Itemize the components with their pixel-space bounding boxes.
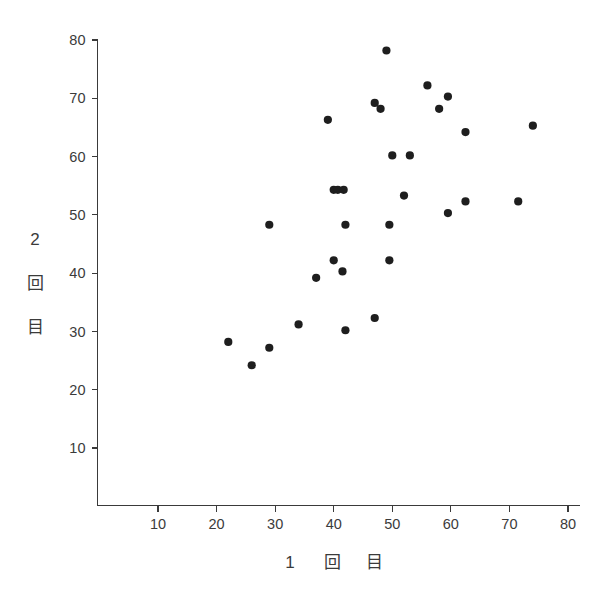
y-tick-label: 40 [69,265,85,281]
scatter-chart: 1020304050607080 1020304050607080 2回目 1回… [0,0,612,600]
data-point [406,151,414,159]
data-point [265,221,273,229]
data-point [461,197,469,205]
data-points [224,46,537,369]
y-tick-label: 10 [69,440,85,456]
y-tick-label: 60 [69,149,85,165]
data-point [330,256,338,264]
data-point [371,314,379,322]
data-point [382,46,390,54]
data-point [400,192,408,200]
data-point [371,99,379,107]
data-point [341,326,349,334]
data-point [529,122,537,130]
y-tick-label: 50 [69,207,85,223]
data-point [294,320,302,328]
x-axis-title-char: 回 [324,553,341,572]
data-point [444,92,452,100]
data-point [341,221,349,229]
data-point [265,344,273,352]
data-point [248,361,256,369]
y-axis-title-char: 回 [27,274,44,293]
data-point [312,274,320,282]
data-point [388,151,396,159]
data-point [324,116,332,124]
x-tick-label: 30 [267,516,283,532]
data-point [444,209,452,217]
data-point [461,128,469,136]
y-tick-label: 70 [69,90,85,106]
x-tick-label: 10 [150,516,166,532]
y-tick-label: 20 [69,382,85,398]
x-axis-title-char: 目 [366,553,383,572]
y-tick-label: 80 [69,32,85,48]
data-point [224,338,232,346]
x-tick-label: 20 [209,516,225,532]
data-point [423,81,431,89]
x-tick-label: 70 [501,516,517,532]
x-tick-label: 50 [384,516,400,532]
x-tick-label: 60 [443,516,459,532]
y-tick-label: 30 [69,324,85,340]
y-axis-ticks: 1020304050607080 [69,32,97,456]
data-point [435,105,443,113]
y-axis-title: 2回目 [27,230,44,337]
y-axis-title-char: 目 [27,318,44,337]
data-point [376,105,384,113]
x-axis-title: 1回目 [285,553,382,572]
data-point [385,221,393,229]
x-axis-ticks: 1020304050607080 [150,506,576,532]
data-point [514,197,522,205]
data-point [385,256,393,264]
data-point [340,186,348,194]
plot-area: 1020304050607080 1020304050607080 2回目 1回… [0,0,612,600]
x-tick-label: 40 [326,516,342,532]
x-tick-label: 80 [560,516,576,532]
data-point [338,267,346,275]
y-axis-title-char: 2 [30,230,39,249]
x-axis-title-char: 1 [285,553,294,572]
